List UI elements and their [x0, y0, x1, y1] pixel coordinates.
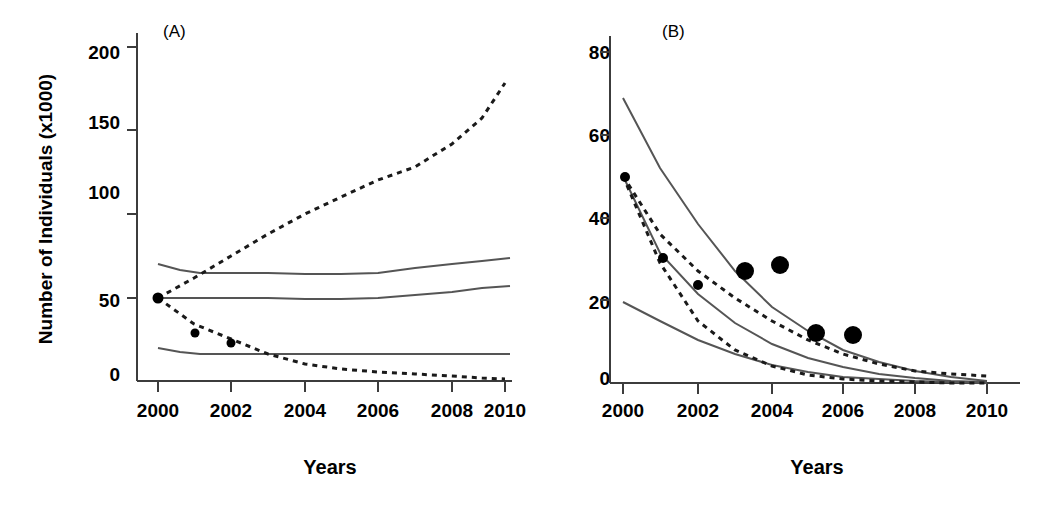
panel-b-median-line: [623, 176, 987, 382]
panel-b-upper-projection-line: [623, 176, 987, 376]
panel-b-data-point: [658, 253, 668, 263]
panel-a: 200 150 100 50 0 2000 2002 2004 2006 200…: [0, 0, 520, 518]
panel-a-upper-projection-line: [158, 83, 505, 298]
panel-b-upper-bound-line: [623, 98, 987, 381]
panel-b-data-point: [693, 280, 703, 290]
panel-b: 80 60 40 20 0 2000 2002 2004 2006 2008 2…: [520, 0, 1039, 518]
panel-a-median-line: [158, 286, 510, 299]
panel-a-data-point: [227, 339, 236, 348]
panel-b-x-ticks: [623, 383, 987, 394]
figure-container: Number of Individuals (x1000) 200 150 10…: [0, 0, 1039, 518]
panel-a-lower-projection-line: [158, 298, 505, 379]
panel-b-y-ticks: [600, 52, 610, 300]
panel-a-x-ticks: [158, 381, 505, 392]
panel-b-data-point: [807, 324, 825, 342]
panel-a-plot: [0, 0, 520, 420]
panel-a-x-axis-title: Years: [255, 456, 405, 479]
panel-b-lower-bound-line: [623, 302, 987, 383]
panel-b-data-point: [844, 326, 862, 344]
panel-b-data-point: [736, 262, 754, 280]
panel-b-x-axis-title: Years: [742, 456, 892, 479]
panel-a-upper-bound-line: [158, 258, 510, 274]
panel-a-y-ticks: [127, 47, 137, 298]
panel-a-data-point: [191, 329, 200, 338]
panel-a-data-point: [153, 293, 164, 304]
panel-b-plot: [520, 0, 1039, 420]
panel-a-lower-bound-line: [158, 348, 510, 354]
panel-b-lower-projection-line: [623, 176, 987, 383]
panel-b-data-point: [620, 172, 630, 182]
panel-b-data-point: [771, 256, 789, 274]
